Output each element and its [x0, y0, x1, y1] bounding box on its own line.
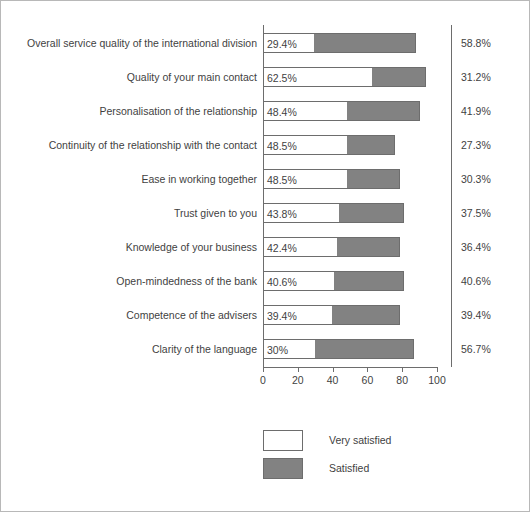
table-row: Personalisation of the relationship 48.4… — [1, 99, 530, 123]
row-value-satisfied: 31.2% — [461, 65, 491, 89]
stacked-bar: 48.5% — [263, 169, 437, 189]
category-label: Clarity of the language — [152, 337, 257, 361]
bar-segment-very-satisfied: 43.8% — [263, 203, 339, 223]
stacked-bar: 39.4% — [263, 305, 437, 325]
bar-segment-very-satisfied: 62.5% — [263, 67, 372, 87]
bar-segment-very-satisfied: 48.5% — [263, 169, 347, 189]
row-value-satisfied: 58.8% — [461, 31, 491, 55]
row-value-satisfied: 41.9% — [461, 99, 491, 123]
table-row: Open-mindedness of the bank 40.6% 40.6% — [1, 269, 530, 293]
stacked-bar: 48.4% — [263, 101, 437, 121]
bar-value-very-satisfied: 62.5% — [267, 68, 297, 88]
bar-segment-satisfied — [314, 33, 416, 53]
bar-segment-very-satisfied: 39.4% — [263, 305, 332, 325]
stacked-bar: 40.6% — [263, 271, 437, 291]
bar-value-very-satisfied: 48.5% — [267, 170, 297, 190]
bar-segment-very-satisfied: 48.4% — [263, 101, 347, 121]
bar-segment-very-satisfied: 40.6% — [263, 271, 334, 291]
legend-swatch-satisfied — [263, 458, 303, 479]
x-tick-label: 0 — [260, 374, 266, 386]
x-axis-line — [263, 367, 438, 368]
bar-segment-satisfied — [347, 135, 395, 155]
x-tick-label: 80 — [396, 374, 408, 386]
bar-value-very-satisfied: 48.5% — [267, 136, 297, 156]
x-tick-label: 60 — [362, 374, 374, 386]
bar-segment-satisfied — [334, 271, 405, 291]
bar-segment-satisfied — [315, 339, 414, 359]
x-tick — [367, 367, 368, 372]
bar-segment-very-satisfied: 30% — [263, 339, 315, 359]
x-tick-label: 20 — [292, 374, 304, 386]
table-row: Trust given to you 43.8% 37.5% — [1, 201, 530, 225]
x-tick-label: 40 — [327, 374, 339, 386]
table-row: Quality of your main contact 62.5% 31.2% — [1, 65, 530, 89]
legend-item-very-satisfied: Very satisfied — [263, 426, 463, 454]
chart-plot-area: Overall service quality of the internati… — [1, 1, 530, 401]
stacked-bar: 29.4% — [263, 33, 437, 53]
legend-label-satisfied: Satisfied — [329, 462, 369, 474]
legend-item-satisfied: Satisfied — [263, 454, 463, 482]
row-value-satisfied: 27.3% — [461, 133, 491, 157]
legend-swatch-very-satisfied — [263, 430, 303, 451]
x-tick-label: 100 — [428, 374, 446, 386]
category-label: Open-mindedness of the bank — [116, 269, 257, 293]
x-tick — [263, 367, 264, 372]
category-label: Trust given to you — [174, 201, 257, 225]
stacked-bar: 43.8% — [263, 203, 437, 223]
table-row: Clarity of the language 30% 56.7% — [1, 337, 530, 361]
table-row: Overall service quality of the internati… — [1, 31, 530, 55]
category-label: Continuity of the relationship with the … — [49, 133, 257, 157]
category-label: Personalisation of the relationship — [99, 99, 257, 123]
bar-segment-satisfied — [372, 67, 426, 87]
category-label: Knowledge of your business — [126, 235, 257, 259]
category-label: Quality of your main contact — [127, 65, 257, 89]
x-tick — [437, 367, 438, 372]
bar-segment-satisfied — [347, 101, 420, 121]
chart-figure: Overall service quality of the internati… — [0, 0, 530, 512]
x-tick — [333, 367, 334, 372]
bar-value-very-satisfied: 40.6% — [267, 272, 297, 292]
chart-legend: Very satisfied Satisfied — [263, 426, 463, 482]
stacked-bar: 42.4% — [263, 237, 437, 257]
category-label: Overall service quality of the internati… — [27, 31, 257, 55]
category-label: Competence of the advisers — [126, 303, 257, 327]
table-row: Ease in working together 48.5% 30.3% — [1, 167, 530, 191]
stacked-bar: 62.5% — [263, 67, 437, 87]
row-value-satisfied: 36.4% — [461, 235, 491, 259]
bar-segment-very-satisfied: 48.5% — [263, 135, 347, 155]
bar-value-very-satisfied: 48.4% — [267, 102, 297, 122]
x-tick — [298, 367, 299, 372]
category-label: Ease in working together — [141, 167, 257, 191]
legend-label-very-satisfied: Very satisfied — [329, 434, 391, 446]
bar-value-very-satisfied: 42.4% — [267, 238, 297, 258]
row-value-satisfied: 37.5% — [461, 201, 491, 225]
bar-segment-very-satisfied: 29.4% — [263, 33, 314, 53]
table-row: Knowledge of your business 42.4% 36.4% — [1, 235, 530, 259]
bar-segment-very-satisfied: 42.4% — [263, 237, 337, 257]
table-row: Competence of the advisers 39.4% 39.4% — [1, 303, 530, 327]
stacked-bar: 30% — [263, 339, 437, 359]
row-value-satisfied: 56.7% — [461, 337, 491, 361]
bar-value-very-satisfied: 43.8% — [267, 204, 297, 224]
bar-value-very-satisfied: 39.4% — [267, 306, 297, 326]
table-row: Continuity of the relationship with the … — [1, 133, 530, 157]
row-value-satisfied: 40.6% — [461, 269, 491, 293]
bar-segment-satisfied — [337, 237, 400, 257]
bar-value-very-satisfied: 29.4% — [267, 34, 297, 54]
bar-segment-satisfied — [332, 305, 401, 325]
bar-segment-satisfied — [347, 169, 400, 189]
bar-value-very-satisfied: 30% — [267, 340, 288, 360]
row-value-satisfied: 39.4% — [461, 303, 491, 327]
stacked-bar: 48.5% — [263, 135, 437, 155]
row-value-satisfied: 30.3% — [461, 167, 491, 191]
bar-segment-satisfied — [339, 203, 404, 223]
x-tick — [402, 367, 403, 372]
